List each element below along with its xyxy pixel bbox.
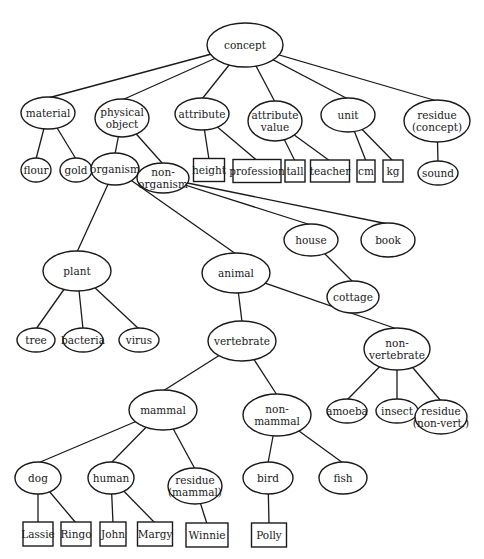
node-label: plant	[63, 265, 91, 277]
node-label: Ringo	[60, 528, 91, 540]
node-john: John	[100, 522, 126, 546]
node-organism: organism	[90, 153, 140, 185]
node-label: unit	[337, 109, 359, 121]
node-label: Winnie	[188, 529, 225, 541]
node-plant: plant	[43, 251, 111, 291]
nodes-layer: conceptmaterialphysicalobjectattributeat…	[15, 23, 470, 547]
node-label: residue	[421, 405, 461, 417]
node-material: material	[21, 97, 75, 129]
node-dog: dog	[15, 462, 61, 494]
node-label: bacteria	[61, 334, 105, 346]
node-label: insect	[381, 405, 414, 417]
node-label: dog	[28, 472, 48, 484]
node-label: organism	[138, 178, 188, 190]
node-label: sound	[422, 167, 454, 179]
concept-hierarchy-diagram: conceptmaterialphysicalobjectattributeat…	[0, 0, 484, 559]
node-label: book	[375, 234, 401, 246]
node-polly: Polly	[252, 523, 287, 547]
node-book: book	[361, 223, 415, 257]
node-bird: bird	[243, 462, 293, 494]
node-label: residue	[175, 474, 215, 486]
node-flour: flour	[21, 158, 51, 182]
node-label: animal	[218, 267, 255, 279]
node-residue-mammal: residue(mammal)	[168, 468, 222, 504]
node-tall: tall	[285, 160, 305, 182]
node-label: (non-vert.)	[413, 417, 469, 429]
node-label: vertebrate	[368, 349, 425, 361]
node-concept: concept	[207, 23, 283, 67]
node-label: attribute	[252, 109, 299, 121]
node-label: concept	[224, 39, 267, 51]
node-label: non-	[385, 337, 409, 349]
node-teacher: teacher	[310, 160, 352, 182]
node-label: gold	[64, 164, 87, 176]
node-attribute-value: attributevalue	[248, 101, 302, 141]
node-gold: gold	[60, 158, 92, 182]
node-human: human	[88, 462, 134, 494]
node-animal: animal	[202, 253, 270, 293]
node-house: house	[284, 224, 338, 256]
node-label: cottage	[333, 291, 373, 303]
node-label: kg	[386, 165, 399, 177]
node-margy: Margy	[138, 522, 173, 546]
node-ringo: Ringo	[60, 522, 91, 546]
node-label: non-	[151, 166, 175, 178]
node-cm: cm	[357, 160, 375, 182]
node-label: non-	[265, 403, 289, 415]
node-attribute: attribute	[175, 98, 229, 130]
node-profession: profession	[229, 160, 285, 183]
node-virus: virus	[119, 328, 159, 352]
node-label: tree	[25, 334, 47, 346]
node-label: bird	[257, 472, 279, 484]
node-label: cm	[358, 165, 374, 177]
node-label: vertebrate	[213, 335, 270, 347]
node-label: Lassie	[21, 528, 55, 540]
node-residue-concept: residue(concept)	[404, 100, 470, 142]
node-label: physical	[100, 106, 144, 118]
node-fish: fish	[319, 462, 367, 494]
node-cottage: cottage	[327, 281, 379, 313]
node-sound: sound	[418, 161, 458, 185]
node-label: organism	[90, 163, 140, 175]
node-lassie: Lassie	[21, 522, 55, 546]
node-label: (mammal)	[168, 486, 222, 498]
node-label: profession	[229, 165, 285, 177]
node-label: mammal	[140, 404, 186, 416]
node-label: Margy	[138, 528, 173, 540]
node-non-vertebrate: non-vertebrate	[364, 328, 430, 370]
node-label: attribute	[179, 108, 226, 120]
node-label: John	[100, 528, 125, 540]
node-tree: tree	[17, 328, 55, 352]
node-label: height	[192, 164, 227, 176]
node-label: virus	[125, 334, 152, 346]
node-non-organism: non-organism	[137, 163, 189, 193]
node-label: house	[295, 234, 326, 246]
node-vertebrate: vertebrate	[208, 321, 276, 361]
node-bacteria: bacteria	[61, 328, 105, 352]
node-insect: insect	[376, 399, 418, 423]
node-physical-object: physicalobject	[95, 99, 149, 137]
node-mammal: mammal	[129, 390, 197, 430]
node-unit: unit	[321, 98, 375, 132]
node-amoeba: amoeba	[326, 399, 368, 423]
node-height: height	[192, 159, 227, 182]
node-kg: kg	[383, 160, 403, 182]
node-label: fish	[333, 472, 352, 484]
node-label: teacher	[310, 165, 352, 177]
node-label: human	[93, 472, 130, 484]
node-winnie: Winnie	[186, 523, 228, 547]
node-label: amoeba	[326, 405, 368, 417]
node-label: flour	[23, 164, 49, 176]
node-non-mammal: non-mammal	[243, 394, 311, 436]
node-label: object	[106, 118, 139, 130]
node-label: value	[260, 121, 290, 133]
node-label: tall	[286, 165, 304, 177]
node-label: Polly	[256, 529, 282, 541]
node-label: material	[26, 107, 71, 119]
node-label: (concept)	[412, 121, 462, 133]
node-label: residue	[417, 109, 457, 121]
edge-non-organism-to-book	[163, 178, 388, 224]
node-label: mammal	[254, 415, 300, 427]
node-residue-non-vert: residue(non-vert.)	[413, 400, 469, 434]
diagram-canvas: conceptmaterialphysicalobjectattributeat…	[0, 0, 484, 559]
